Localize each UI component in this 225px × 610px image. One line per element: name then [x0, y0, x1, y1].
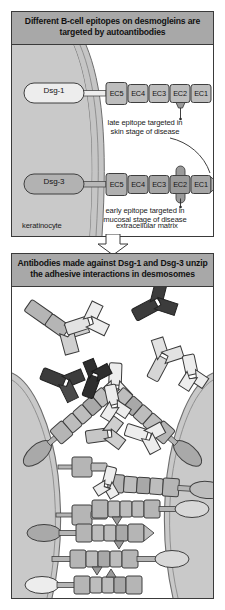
epitope-panel-body: Dsg-1 Dsg-3 EC5 EC4 EC3 EC2 EC1 EC5 EC4 … — [12, 45, 213, 236]
unzipping-panel: Antibodies made against Dsg-1 and Dsg-3 … — [11, 253, 214, 599]
dsg3-ec4-label: EC4 — [128, 180, 148, 189]
epitope-panel-header: Different B-cell epitopes on desmogleins… — [12, 12, 213, 45]
unzipping-panel-header-line1: Antibodies made against Dsg-1 and Dsg-3 … — [18, 258, 208, 268]
late-epitope-annotation: late epitope targeted in skin stage of d… — [93, 119, 197, 137]
epitope-knob — [106, 569, 116, 577]
desmoglein-cytoplasmic-tail — [175, 501, 209, 518]
dsg3-ec2-label: EC2 — [170, 180, 190, 189]
epitope-knob — [114, 541, 124, 549]
dsg3-ec2-epitope-knob-top — [176, 166, 185, 176]
dsg1-ec1-label: EC1 — [191, 89, 211, 98]
dsg3-ec3-label: EC3 — [149, 180, 169, 189]
dsg1-ec4-label: EC4 — [128, 89, 148, 98]
antibody-light — [136, 333, 188, 388]
unzipping-panel-header-line2: the adhesive interactions in desmosomes — [30, 269, 195, 279]
dsg1-ec5-label: EC5 — [106, 89, 127, 98]
extracellular-matrix-label: extracellular matrix — [116, 221, 178, 230]
desmoglein-cytoplasmic-tail — [155, 551, 189, 568]
desmoglein-cytoplasmic-tail — [25, 577, 59, 594]
late-epitope-line1: late epitope targeted in — [108, 118, 183, 127]
dsg3-ec5-label: EC5 — [106, 180, 127, 189]
dsg3-label: Dsg-3 — [24, 177, 84, 186]
epitope-panel-header-line2: targeted by autoantibodies — [60, 27, 166, 37]
desmoglein-cytoplasmic-tail — [27, 525, 61, 542]
dsg3-ec1-label: EC1 — [191, 180, 211, 189]
unzipping-panel-header: Antibodies made against Dsg-1 and Dsg-3 … — [12, 254, 213, 287]
early-epitope-line1: early epitope targeted in — [106, 206, 185, 215]
late-epitope-leader-line — [170, 138, 210, 173]
epitope-knob — [92, 567, 102, 575]
antibody-light — [84, 415, 127, 454]
figure-root: Different B-cell epitopes on desmogleins… — [0, 0, 225, 610]
dsg1-label: Dsg-1 — [24, 86, 84, 95]
antibody-dark — [125, 287, 182, 332]
epitope-panel-header-line1: Different B-cell epitopes on desmogleins… — [25, 16, 200, 26]
dsg3-ec1-terminus-arrow — [211, 177, 213, 192]
late-epitope-line2: skin stage of disease — [111, 127, 180, 136]
keratinocyte-label: keratinocyte — [22, 221, 62, 230]
desmoglein-chain — [58, 457, 107, 477]
flow-arrow-shape — [98, 234, 128, 255]
keratinocyte-cytoplasm — [12, 45, 92, 236]
desmosome-scene — [12, 287, 213, 598]
epitope-knob — [112, 517, 122, 525]
unzipping-panel-body — [12, 287, 213, 598]
chain-terminus-arrow — [144, 525, 154, 541]
antibody-dark — [35, 356, 88, 405]
dsg1-ec2-label: EC2 — [170, 89, 190, 98]
dsg1-ec2-epitope-knob — [176, 103, 185, 109]
dsg1-ec3-label: EC3 — [149, 89, 169, 98]
epitope-panel: Different B-cell epitopes on desmogleins… — [11, 11, 214, 237]
